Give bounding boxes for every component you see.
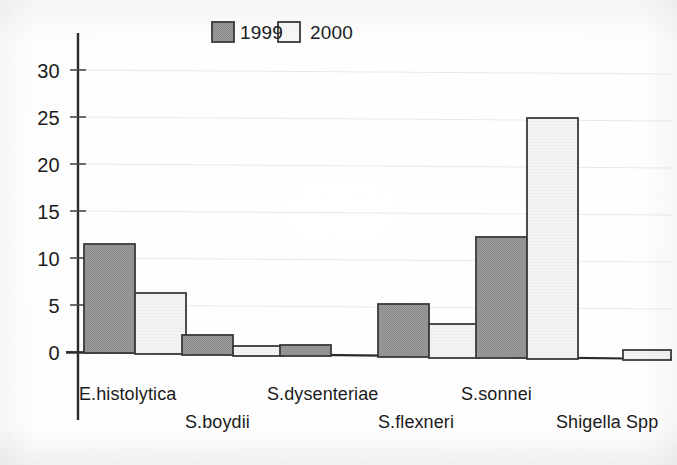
- gridline-20: [78, 164, 672, 168]
- gridline-30: [78, 70, 672, 74]
- bar-group-shigella-spp: [623, 350, 671, 360]
- y-tick-label-20: 20: [16, 155, 60, 175]
- bar-1999-s-boydii: [182, 335, 233, 355]
- bar-group-s-flexneri: [378, 304, 480, 358]
- bar-1999-s-sonnei: [476, 237, 527, 358]
- category-label-s-boydii: S.boydii: [185, 413, 250, 431]
- legend-label-1999: 1999: [240, 23, 283, 42]
- y-tick-label-10: 10: [16, 249, 60, 269]
- bar-group-s-boydii: [182, 335, 284, 356]
- y-tick-label-25: 25: [16, 108, 60, 128]
- bar-1999-s-dysenteriae: [280, 345, 331, 356]
- y-tick-label-0: 0: [16, 343, 60, 363]
- bar-1999-e-histolytica: [84, 244, 135, 353]
- bar-group-e-histolytica: [84, 244, 186, 354]
- legend-swatch-1999: [212, 22, 234, 42]
- category-label-s-flexneri: S.flexneri: [378, 413, 454, 431]
- category-label-s-dysenteriae: S.dysenteriae: [267, 385, 378, 403]
- bar-1999-s-flexneri: [378, 304, 429, 357]
- y-tick-label-30: 30: [16, 61, 60, 81]
- bar-2000-s-flexneri: [429, 324, 480, 358]
- gridline-10: [78, 258, 672, 262]
- category-label-shigella-spp: Shigella Spp: [556, 413, 658, 431]
- bar-group-s-sonnei: [476, 118, 578, 359]
- y-tick-label-15: 15: [16, 202, 60, 222]
- gridlines: [78, 70, 672, 309]
- bar-2000-s-sonnei: [527, 118, 578, 359]
- y-tick-label-5: 5: [16, 296, 60, 316]
- legend-label-2000: 2000: [310, 23, 353, 42]
- gridline-15: [78, 211, 672, 215]
- gridline-25: [78, 117, 672, 121]
- bar-2000-e-histolytica: [135, 293, 186, 354]
- category-label-e-histolytica: E.histolytica: [79, 385, 176, 403]
- bar-group-s-dysenteriae: [280, 345, 331, 356]
- category-label-s-sonnei: S.sonnei: [461, 385, 532, 403]
- bar-chart: 30 25 20 15 10 5 0 1999 2000 E.histolyti…: [0, 0, 677, 465]
- bar-2000-s-boydii: [233, 346, 284, 356]
- bar-2000-shigella-spp: [623, 350, 671, 360]
